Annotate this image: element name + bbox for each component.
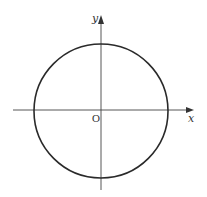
origin-label: O (92, 112, 100, 124)
x-axis-label: x (188, 112, 195, 125)
y-axis-label: y (91, 12, 99, 25)
y-axis-arrow-icon (98, 15, 104, 24)
coordinate-diagram: y O x (0, 0, 207, 197)
